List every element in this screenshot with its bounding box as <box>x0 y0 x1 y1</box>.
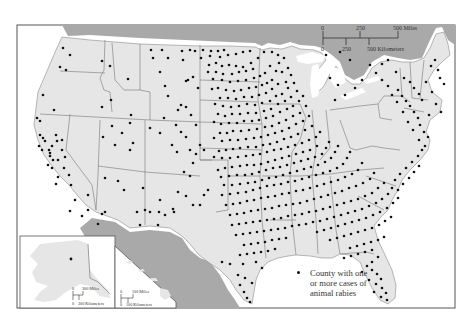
county-dot <box>357 231 360 234</box>
county-dot <box>418 165 421 168</box>
county-dot <box>253 199 256 202</box>
county-dot <box>183 171 186 174</box>
county-dot <box>369 64 372 67</box>
county-dot <box>281 193 284 196</box>
county-dot <box>229 214 232 217</box>
county-dot <box>229 81 232 84</box>
county-dot <box>36 117 39 120</box>
county-dot <box>257 242 260 245</box>
county-dot <box>371 192 374 195</box>
county-dot <box>97 223 100 226</box>
county-dot <box>293 162 296 165</box>
county-dot <box>402 111 405 114</box>
county-dot <box>271 51 274 54</box>
county-dot <box>409 81 412 84</box>
county-dot <box>269 65 272 68</box>
county-dot <box>244 174 247 177</box>
county-dot <box>159 132 162 135</box>
county-dot <box>405 167 408 170</box>
county-dot <box>322 172 325 175</box>
county-dot <box>257 209 260 212</box>
county-dot <box>185 195 188 198</box>
county-dot <box>363 243 366 246</box>
county-dot <box>237 80 240 83</box>
county-dot <box>245 79 248 82</box>
county-dot <box>255 146 258 149</box>
county-dot <box>251 173 254 176</box>
county-dot <box>264 126 267 129</box>
county-dot <box>249 232 252 235</box>
county-dot <box>247 182 250 185</box>
county-dot <box>190 114 193 117</box>
county-dot <box>260 163 263 166</box>
county-dot <box>203 194 206 197</box>
county-dot <box>172 208 175 211</box>
county-dot <box>277 83 280 86</box>
county-dot <box>231 166 234 169</box>
county-dot <box>207 189 210 192</box>
county-dot <box>228 64 231 67</box>
county-dot <box>180 104 183 107</box>
county-dot <box>377 187 380 190</box>
county-dot <box>262 144 265 147</box>
county-dot <box>213 121 216 124</box>
county-dot <box>69 54 72 57</box>
county-dot <box>161 49 164 52</box>
county-dot <box>63 167 66 170</box>
county-dot <box>185 80 188 83</box>
scale-main-km-500: 500 Kilometers <box>367 46 405 52</box>
county-dot <box>158 211 161 214</box>
county-dot <box>224 115 227 118</box>
county-dot <box>334 99 337 102</box>
county-dot <box>287 67 290 70</box>
county-dot <box>250 62 253 65</box>
county-dot <box>364 251 367 254</box>
county-dot <box>327 194 330 197</box>
county-dot <box>293 82 296 85</box>
county-dot <box>242 233 245 236</box>
county-dot <box>68 174 71 177</box>
county-dot <box>310 166 313 169</box>
county-dot <box>261 179 264 182</box>
hawaii-scale-km-100: 100 Kilometers <box>126 302 152 307</box>
county-dot <box>301 213 304 216</box>
county-dot <box>309 187 312 190</box>
county-dot <box>361 79 364 82</box>
county-dot <box>280 183 283 186</box>
county-dot <box>269 143 272 146</box>
county-dot <box>297 133 300 136</box>
county-dot <box>199 144 202 147</box>
county-dot <box>355 185 358 188</box>
county-dot <box>280 217 283 220</box>
county-dot <box>110 99 113 102</box>
county-dot <box>336 237 339 240</box>
county-dot <box>303 168 306 171</box>
county-dot <box>229 263 232 266</box>
county-dot <box>259 187 262 190</box>
county-dot <box>227 54 230 57</box>
county-dot <box>348 187 351 190</box>
county-dot <box>53 109 56 112</box>
county-dot <box>217 169 220 172</box>
county-dot <box>325 147 328 150</box>
county-dot <box>222 105 225 108</box>
county-dot <box>274 132 277 135</box>
county-dot <box>281 157 284 160</box>
county-dot <box>302 95 305 98</box>
county-dot <box>223 49 226 52</box>
county-dot <box>252 68 255 71</box>
county-dot <box>296 90 299 93</box>
county-dot <box>387 85 390 88</box>
county-dot <box>361 208 364 211</box>
county-dot <box>87 194 90 197</box>
county-dot <box>207 71 210 74</box>
county-dot <box>39 120 42 123</box>
county-dot <box>49 155 52 158</box>
county-dot <box>443 83 446 86</box>
county-dot <box>243 120 246 123</box>
county-dot <box>337 225 340 228</box>
county-dot <box>242 51 245 54</box>
county-dot <box>101 106 104 109</box>
county-dot <box>248 129 251 132</box>
county-dot <box>221 65 224 68</box>
